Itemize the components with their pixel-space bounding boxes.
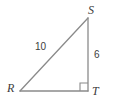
right-angle-marker-icon — [80, 83, 88, 91]
side-length-label-RS: 10 — [35, 42, 46, 52]
geometry-figure: S R T 10 6 — [0, 0, 113, 102]
vertex-label-R: R — [7, 82, 14, 94]
vertex-label-T: T — [92, 85, 99, 97]
side-length-label-ST: 6 — [94, 50, 100, 60]
segment-RS — [20, 18, 88, 91]
vertex-label-S: S — [88, 4, 94, 16]
